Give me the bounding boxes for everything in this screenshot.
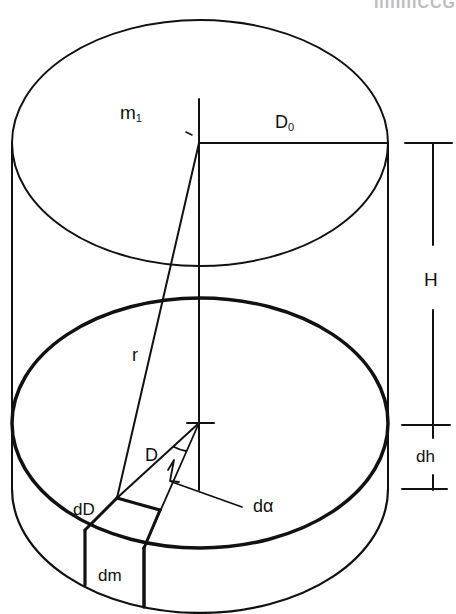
r-line [117, 143, 199, 498]
label-D0: D0 [275, 113, 294, 133]
label-m1-sub: 1 [136, 112, 142, 124]
slice-inner-arc [117, 498, 160, 510]
label-r: r [132, 346, 138, 364]
label-H: H [424, 270, 438, 289]
label-dm: dm [98, 567, 122, 584]
disc-bottom-arc [12, 489, 388, 613]
cylinder-diagram [0, 0, 456, 614]
label-D0-sub: 0 [288, 121, 294, 133]
label-D: D [145, 446, 158, 464]
label-dalpha: dα [253, 497, 273, 515]
label-m1: m1 [120, 103, 142, 124]
label-D0-main: D [275, 112, 288, 132]
dalpha-leader [172, 482, 242, 507]
label-m1-main: m [120, 102, 136, 123]
label-dD: dD [73, 501, 95, 518]
angle-arc [174, 447, 186, 451]
m1-pointer [186, 132, 192, 135]
label-dh: dh [416, 448, 435, 465]
